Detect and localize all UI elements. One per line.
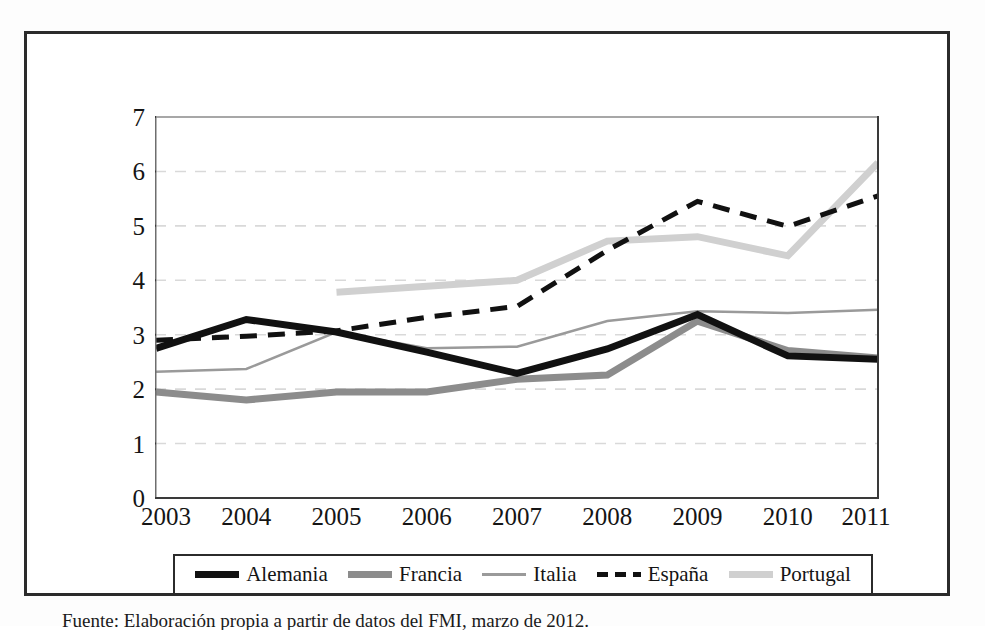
legend-label: Alemania	[246, 564, 328, 585]
legend-swatch-francia	[348, 571, 392, 578]
y-axis-tick-labels: 01234567	[113, 116, 145, 499]
legend-swatch-españa	[597, 572, 641, 577]
x-tick-label: 2011	[841, 504, 890, 529]
y-tick-label: 5	[113, 213, 145, 238]
legend-item-portugal: Portugal	[729, 564, 851, 585]
gridlines	[155, 171, 879, 443]
y-tick-label: 6	[113, 159, 145, 184]
x-tick-label: 2003	[141, 504, 191, 529]
x-tick-label: 2008	[582, 504, 632, 529]
figure-caption: Fuente: Elaboración propia a partir de d…	[62, 611, 912, 630]
y-tick-label: 1	[113, 431, 145, 456]
y-tick-label: 3	[113, 322, 145, 347]
legend-swatch-alemania	[195, 571, 239, 578]
y-tick-label: 2	[113, 377, 145, 402]
x-tick-label: 2007	[492, 504, 542, 529]
y-tick-label: 7	[113, 105, 145, 130]
x-tick-label: 2005	[312, 504, 362, 529]
legend-label: Francia	[399, 564, 462, 585]
legend-swatch-italia	[482, 573, 526, 576]
series-line-alemania	[156, 315, 878, 374]
legend-swatch-portugal	[729, 571, 773, 578]
legend-label: Italia	[533, 564, 576, 585]
legend-item-francia: Francia	[348, 564, 462, 585]
legend-item-alemania: Alemania	[195, 564, 328, 585]
x-tick-label: 2006	[402, 504, 452, 529]
x-tick-label: 2010	[763, 504, 813, 529]
x-axis-tick-labels: 200320042005200620072008200920102011	[155, 504, 879, 538]
line-chart-svg	[155, 116, 879, 499]
series-line-portugal	[337, 163, 879, 293]
legend-item-españa: España	[597, 564, 709, 585]
legend-item-italia: Italia	[482, 564, 576, 585]
x-tick-label: 2004	[221, 504, 271, 529]
series-lines	[156, 163, 878, 400]
legend-label: España	[648, 564, 709, 585]
legend-label: Portugal	[780, 564, 851, 585]
chart-legend: AlemaniaFranciaItaliaEspañaPortugal	[173, 554, 873, 595]
x-tick-label: 2009	[673, 504, 723, 529]
figure-frame: 01234567 2003200420052006200720082009201…	[24, 31, 950, 596]
y-tick-label: 4	[113, 268, 145, 293]
plot-area	[155, 116, 879, 499]
